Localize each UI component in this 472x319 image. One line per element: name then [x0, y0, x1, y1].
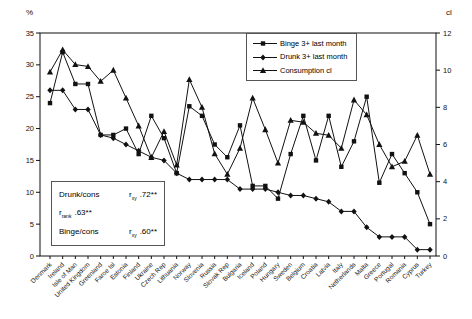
series-1-point	[199, 177, 204, 183]
y-axis-left-tick-label: 25	[26, 92, 34, 101]
series-2-point	[47, 69, 53, 75]
y-axis-right-tick-label: 12	[443, 29, 451, 38]
correlation-row-rank: rrank.63**	[59, 208, 157, 219]
series-1-point	[225, 177, 230, 183]
series-0-point	[415, 190, 419, 194]
series-2-point	[414, 132, 420, 138]
series-1-point	[288, 192, 293, 198]
series-1-point	[313, 196, 318, 202]
series-2-point	[136, 123, 142, 129]
series-2-point	[110, 67, 116, 73]
legend-item-binge: Binge 3+ last month	[252, 39, 356, 48]
series-1-point	[47, 87, 52, 93]
series-1-point	[85, 106, 90, 112]
series-2-point	[199, 104, 205, 110]
series-1-point	[377, 234, 382, 240]
series-2-point	[60, 46, 66, 52]
series-1-point	[212, 177, 217, 183]
series-2-point	[427, 171, 433, 177]
y-axis-left-tick-label: 0	[30, 252, 34, 261]
y-axis-left-tick-label: 10	[26, 188, 34, 197]
series-2-point	[186, 76, 192, 82]
series-0-point	[314, 158, 318, 162]
diamond-marker-icon	[260, 54, 265, 60]
y-axis-left-tick-label: 20	[26, 124, 34, 133]
y-axis-right-tick-label: 4	[443, 177, 447, 186]
square-marker-icon	[252, 39, 278, 48]
correlation-row-binge: Binge/cons rxy.60**	[59, 227, 157, 238]
y-axis-right-tick-label: 2	[443, 214, 447, 223]
series-1-point	[187, 177, 192, 183]
correlation-value: rrank.63**	[59, 208, 92, 219]
y-axis-left-tick-label: 35	[26, 29, 34, 38]
series-0-point	[149, 114, 153, 118]
y-axis-right-tick-label: 10	[443, 66, 451, 75]
series-2-point	[212, 150, 218, 156]
left-axis-unit-label: %	[26, 8, 33, 17]
series-line-2	[50, 50, 430, 175]
series-0-point	[364, 95, 368, 99]
series-2-point	[123, 95, 129, 101]
series-0-point	[276, 196, 280, 200]
series-0-point	[187, 104, 191, 108]
series-2-point	[224, 171, 230, 177]
series-2-point	[250, 95, 256, 101]
series-2-point	[376, 141, 382, 147]
correlation-value: rxy.72**	[129, 190, 157, 201]
series-0-point	[428, 222, 432, 226]
series-0-point	[288, 152, 292, 156]
series-1-point	[427, 247, 432, 253]
right-axis-unit-label: cl	[446, 8, 452, 17]
line-chart-canvas: 05101520253035024681012DenmarkIrelandIsl…	[0, 0, 472, 319]
series-1-point	[301, 192, 306, 198]
legend-label: Consumption cl	[280, 67, 332, 75]
series-2-point	[262, 126, 268, 132]
series-1-point	[123, 142, 128, 148]
series-0-point	[212, 142, 216, 146]
correlation-value: rxy.60**	[129, 227, 157, 238]
legend-label: Binge 3+ last month	[280, 40, 347, 48]
series-0-point	[390, 152, 394, 156]
y-axis-right-tick-label: 8	[443, 103, 447, 112]
series-0-point	[225, 155, 229, 159]
series-1-point	[237, 186, 242, 192]
series-0-point	[48, 101, 52, 105]
series-2-point	[389, 164, 395, 170]
y-axis-right-tick-label: 0	[443, 252, 447, 261]
y-axis-left-tick-label: 5	[30, 220, 34, 229]
legend-label: Drunk 3+ last month	[280, 53, 347, 61]
legend-item-drunk: Drunk 3+ last month	[252, 53, 356, 62]
series-1-point	[326, 199, 331, 205]
series-0-point	[124, 126, 128, 130]
chart-legend: Binge 3+ last month Drunk 3+ last month …	[246, 33, 357, 81]
series-0-point	[402, 171, 406, 175]
series-2-point	[275, 160, 281, 166]
series-0-point	[352, 139, 356, 143]
series-0-point	[326, 114, 330, 118]
correlation-row-drunk: Drunk/cons rxy.72**	[59, 190, 157, 201]
series-2-point	[288, 117, 294, 123]
series-2-point	[351, 97, 357, 103]
x-axis-country-label: Latvia	[314, 260, 331, 277]
y-axis-left-tick-label: 30	[26, 60, 34, 69]
series-0-point	[377, 181, 381, 185]
diamond-marker-icon	[252, 53, 278, 62]
series-1-point	[389, 234, 394, 240]
series-2-point	[402, 158, 408, 164]
series-2-point	[161, 128, 167, 134]
series-0-point	[73, 82, 77, 86]
legend-item-consumption: Consumption cl	[252, 66, 356, 75]
series-1-point	[339, 208, 344, 214]
series-0-point	[339, 165, 343, 169]
series-0-point	[238, 123, 242, 127]
series-0-point	[86, 82, 90, 86]
correlation-box: Drunk/cons rxy.72** rrank.63** Binge/con…	[51, 181, 165, 246]
series-0-point	[301, 114, 305, 118]
triangle-marker-icon	[252, 66, 278, 75]
chart-figure: % cl 05101520253035024681012DenmarkIrela…	[0, 0, 472, 319]
correlation-label: Binge/cons	[59, 227, 99, 236]
y-axis-left-tick-label: 15	[26, 156, 34, 165]
correlation-label: Drunk/cons	[59, 190, 99, 199]
square-marker-icon	[261, 41, 265, 45]
y-axis-right-tick-label: 6	[443, 140, 447, 149]
